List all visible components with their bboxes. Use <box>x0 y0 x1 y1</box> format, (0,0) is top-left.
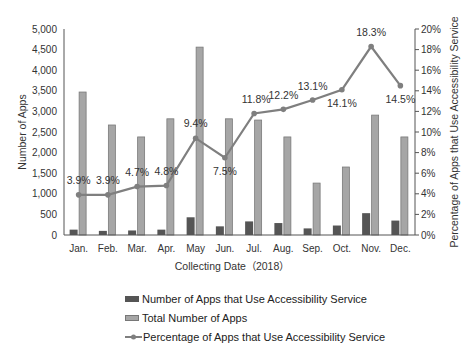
y-tick-label: 1,000 <box>32 188 57 199</box>
x-tick-label: Apr. <box>157 243 175 254</box>
accessibility-count-bar <box>362 213 370 235</box>
data-label: 9.4% <box>184 117 208 129</box>
left-y-axis: 05001,0001,5002,0002,5003,0003,5004,0004… <box>32 24 64 241</box>
line-marker <box>339 87 345 93</box>
y-tick-label: 0 <box>51 230 57 241</box>
data-label: 14.1% <box>327 97 357 109</box>
line-marker <box>222 155 228 161</box>
right-y-tick-label: 14% <box>421 85 441 96</box>
right-y-axis-title: Percentage of Apps that Use Accessibilit… <box>448 16 460 247</box>
accessibility-count-bar <box>128 230 136 235</box>
y-tick-label: 2,500 <box>32 127 57 138</box>
light-bar-swatch-icon <box>125 315 139 321</box>
accessibility-count-bar <box>304 228 312 235</box>
total-apps-bar <box>372 115 379 235</box>
line-marker <box>134 184 140 190</box>
total-apps-bar <box>313 183 320 235</box>
data-label: 14.5% <box>385 93 415 105</box>
legend-label: Percentage of Apps that Use Accessibilit… <box>143 331 385 343</box>
total-apps-bar <box>255 120 262 235</box>
legend-item-percentage: Percentage of Apps that Use Accessibilit… <box>125 327 385 346</box>
right-y-tick-label: 20% <box>421 24 441 35</box>
right-y-tick-label: 4% <box>421 188 436 199</box>
data-label: 11.8% <box>242 93 271 105</box>
x-tick-label: Dec. <box>390 243 411 254</box>
x-tick-label: Jul. <box>246 243 262 254</box>
right-y-tick-label: 10% <box>421 127 441 138</box>
line-marker <box>281 107 287 113</box>
accessibility-count-bar <box>70 230 78 235</box>
y-axis-title: Number of Apps <box>16 94 28 169</box>
line-marker <box>251 111 257 117</box>
y-tick-label: 4,000 <box>32 65 57 76</box>
x-tick-label: Oct. <box>333 243 351 254</box>
accessibility-count-bar <box>157 230 165 235</box>
data-label: 3.9% <box>67 174 91 186</box>
legend-label: Total Number of Apps <box>142 312 247 324</box>
bar-series <box>70 47 408 235</box>
legend-label: Number of Apps that Use Accessibility Se… <box>142 293 367 305</box>
x-tick-label: Aug. <box>273 243 294 254</box>
data-label: 12.2% <box>268 89 298 101</box>
x-tick-label: Jan. <box>69 243 88 254</box>
right-y-tick-label: 12% <box>421 106 441 117</box>
percentage-line-series: 3.9%3.9%4.7%4.8%9.4%7.5%11.8%12.2%13.1%1… <box>67 26 416 198</box>
data-label: 3.9% <box>96 174 120 186</box>
legend-item-total-apps: Total Number of Apps <box>125 308 385 327</box>
x-tick-label: Jun. <box>215 243 234 254</box>
total-apps-bar <box>284 137 291 235</box>
right-y-tick-label: 2% <box>421 209 436 220</box>
right-y-tick-label: 8% <box>421 147 436 158</box>
x-tick-label: Feb. <box>98 243 118 254</box>
data-label: 13.1% <box>298 80 328 92</box>
accessibility-count-bar <box>216 226 224 235</box>
y-tick-label: 3,000 <box>32 106 57 117</box>
x-axis: Jan.Feb.Mar.Apr.MayJun.Jul.Aug.Sep.Oct.N… <box>64 235 415 254</box>
dark-bar-swatch-icon <box>125 296 139 302</box>
y-tick-label: 5,000 <box>32 24 57 35</box>
y-tick-label: 4,500 <box>32 44 57 55</box>
x-tick-label: May <box>186 243 205 254</box>
x-tick-label: Nov. <box>361 243 381 254</box>
total-apps-bar <box>342 167 349 235</box>
accessibility-count-bar <box>391 221 399 235</box>
accessibility-count-bar <box>274 223 282 235</box>
legend-item-accessibility-count: Number of Apps that Use Accessibility Se… <box>125 289 385 308</box>
line-marker <box>76 192 82 198</box>
y-tick-label: 1,500 <box>32 168 57 179</box>
accessibility-count-bar <box>245 221 253 235</box>
x-tick-label: Sep. <box>302 243 323 254</box>
x-tick-label: Mar. <box>127 243 146 254</box>
data-label: 18.3% <box>356 26 386 38</box>
line-marker <box>398 83 404 89</box>
total-apps-bar <box>79 92 86 235</box>
y-tick-label: 500 <box>40 209 57 220</box>
accessibility-count-bar <box>99 231 107 235</box>
right-y-tick-label: 0% <box>421 230 436 241</box>
line-marker-swatch-icon <box>125 332 142 342</box>
right-y-tick-label: 18% <box>421 44 441 55</box>
x-axis-title: Collecting Date（2018） <box>175 260 290 272</box>
legend: Number of Apps that Use Accessibility Se… <box>125 289 385 346</box>
y-tick-label: 3,500 <box>32 85 57 96</box>
data-label: 7.5% <box>213 165 237 177</box>
line-marker <box>368 44 374 50</box>
line-marker <box>310 97 316 103</box>
right-y-tick-label: 16% <box>421 65 441 76</box>
accessibility-count-bar <box>187 217 195 235</box>
line-marker <box>193 135 199 141</box>
line-marker <box>164 183 170 189</box>
right-y-axis: 0%2%4%6%8%10%12%14%16%18%20% <box>415 24 441 241</box>
line-marker <box>105 192 111 198</box>
data-label: 4.7% <box>125 166 149 178</box>
accessibility-count-bar <box>333 226 341 235</box>
y-tick-label: 2,000 <box>32 147 57 158</box>
total-apps-bar <box>401 137 408 235</box>
total-apps-bar <box>225 119 232 235</box>
right-y-tick-label: 6% <box>421 168 436 179</box>
data-label: 4.8% <box>154 165 178 177</box>
